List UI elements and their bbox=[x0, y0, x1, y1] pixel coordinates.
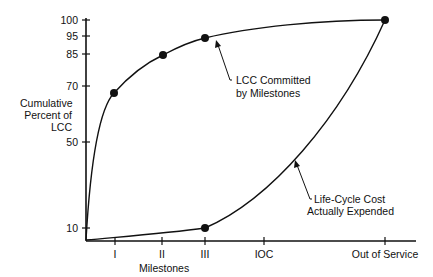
ytick-85: 85 bbox=[48, 48, 78, 60]
committed-annotation-line1: LCC Committed bbox=[236, 74, 311, 86]
xtick-IOC: IOC bbox=[224, 248, 304, 260]
committed-arrowhead bbox=[215, 40, 221, 48]
y-axis-label-line2: Percent of bbox=[20, 109, 72, 121]
ytick-70: 70 bbox=[48, 80, 78, 92]
ytick-10: 10 bbox=[48, 222, 78, 234]
expended-arrowhead bbox=[294, 160, 300, 168]
ytick-50: 50 bbox=[48, 136, 78, 148]
expended-annotation-line2: Actually Expended bbox=[307, 205, 394, 217]
committed-annotation-line2: by Milestones bbox=[236, 87, 300, 99]
xtick-out-of-service: Out of Service bbox=[345, 248, 425, 260]
expended-arrow bbox=[297, 165, 312, 199]
expended-annotation-line1: Life-Cycle Cost bbox=[314, 193, 385, 205]
x-axis-label: Milestones bbox=[139, 262, 189, 274]
ytick-95: 95 bbox=[48, 30, 78, 42]
y-axis-label-line1: Cumulative bbox=[20, 97, 72, 109]
committed-arrow bbox=[218, 45, 232, 80]
ytick-100: 100 bbox=[48, 14, 78, 26]
y-axis-label-line3: LCC bbox=[20, 121, 72, 133]
